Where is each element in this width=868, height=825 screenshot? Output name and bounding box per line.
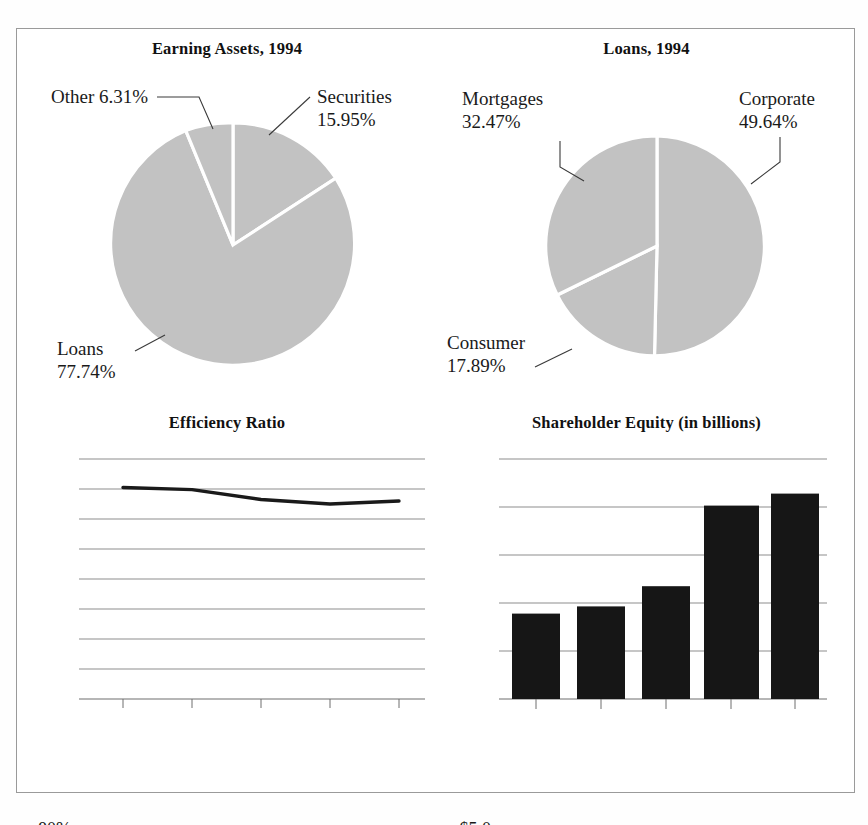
page-canvas: Earning Assets, 1994 Other 6.31% Securit… <box>0 0 868 825</box>
efficiency-ratio-svg <box>17 401 437 794</box>
pie-label-securities: Securities 15.95% <box>317 85 392 131</box>
pie-label-corporate: Corporate 49.64% <box>739 87 815 133</box>
panel-efficiency-ratio: Efficiency Ratio <box>17 401 437 794</box>
bar-1994[interactable] <box>771 494 819 699</box>
panel-earning-assets: Earning Assets, 1994 Other 6.31% Securit… <box>17 29 437 401</box>
pie-label-consumer: Consumer 17.89% <box>447 331 525 377</box>
leader-line-consumer <box>535 349 572 367</box>
pie-label-other: Other 6.31% <box>51 85 148 108</box>
pie-label-loans: Loans 77.74% <box>57 337 116 383</box>
panel-loans-pie: Loans, 1994 Mortgages 32.47% Corporate 4… <box>437 29 856 401</box>
efficiency-data-line <box>123 488 399 505</box>
efficiency-ytick-0: 80% <box>17 819 71 825</box>
bar-1992[interactable] <box>642 586 690 699</box>
shareholder-equity-svg <box>437 401 856 794</box>
equity-ytick-0: $5.0 <box>437 819 491 825</box>
leader-line-securities <box>269 97 310 135</box>
bar-1990[interactable] <box>512 614 560 699</box>
panel-shareholder-equity: Shareholder Equity (in billions) <box>437 401 856 794</box>
bar-1991[interactable] <box>577 606 625 699</box>
figure-frame: Earning Assets, 1994 Other 6.31% Securit… <box>16 28 855 793</box>
pie-slice-corporate[interactable] <box>655 136 765 356</box>
pie-label-mortgages: Mortgages 32.47% <box>462 87 543 133</box>
leader-line-corporate <box>751 137 780 184</box>
bar-1993[interactable] <box>704 506 759 699</box>
